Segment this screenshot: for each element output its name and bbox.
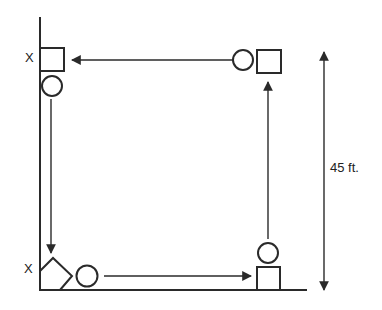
top-left-square — [40, 48, 64, 71]
top-left-x-label: X — [25, 50, 34, 65]
bottom-left-x-label: X — [24, 261, 33, 276]
dimension-label: 45 ft. — [330, 160, 359, 175]
bottom-left-circle — [77, 266, 98, 287]
bottom-right-circle — [258, 243, 278, 263]
top-right-circle — [233, 50, 253, 70]
top-left-circle — [42, 76, 62, 96]
top-right-square — [257, 50, 281, 73]
bottom-right-square — [257, 267, 280, 290]
drill-diagram — [0, 0, 382, 310]
bottom-left-diamond — [40, 258, 72, 290]
